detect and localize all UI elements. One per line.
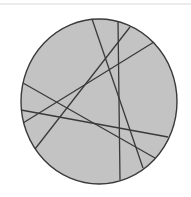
circle-chords-diagram: [0, 0, 191, 197]
circle: [21, 19, 177, 184]
